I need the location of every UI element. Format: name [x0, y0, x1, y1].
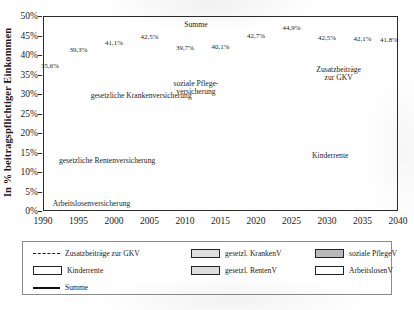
y-tick-mark: [38, 172, 42, 173]
data-point-label: 41,1%: [105, 39, 123, 46]
legend-swatch-white: [33, 266, 62, 275]
y-tick-label: 40%: [21, 50, 38, 60]
y-tick-label: 35%: [21, 70, 38, 80]
y-tick-label: 25%: [21, 109, 38, 119]
y-tick-mark: [38, 211, 42, 212]
legend-swatch-lgray: [191, 266, 220, 275]
annotation-arbeitslosenversicherung: Arbeitslosenversicherung: [53, 200, 131, 209]
data-point-label: 41,8%: [380, 36, 398, 43]
legend-item[interactable]: ArbeitslosenV: [315, 266, 393, 275]
y-tick-mark: [38, 36, 42, 37]
y-tick-mark: [38, 153, 42, 154]
legend-item[interactable]: Kinderrente: [33, 266, 103, 275]
y-tick-label: 20%: [21, 128, 38, 138]
y-tick-label: 5%: [25, 187, 38, 197]
y-tick-mark: [38, 16, 42, 17]
chart-page: In % beitragspflichtiger Einkommen 0%5%1…: [0, 0, 414, 310]
data-point-label: 44,9%: [283, 24, 301, 31]
y-tick-mark: [38, 114, 42, 115]
x-tick-label: 2030: [318, 216, 337, 226]
legend-label: gesetzl. RentenV: [225, 266, 277, 275]
x-tick-label: 2040: [389, 216, 408, 226]
legend-label: soziale PflegeV: [349, 249, 397, 258]
annotation-summe: Summe: [184, 21, 207, 30]
y-tick-label: 45%: [21, 31, 38, 41]
data-point-label: 39,7%: [176, 44, 194, 51]
legend-label: Kinderrente: [67, 266, 103, 275]
y-tick-mark: [38, 75, 42, 76]
data-point-label: 42,5%: [141, 33, 159, 40]
legend-item[interactable]: gesetzl. KrankenV: [191, 249, 282, 258]
x-tick-label: 2005: [140, 216, 159, 226]
legend-label: ArbeitslosenV: [349, 266, 393, 275]
x-tick-label: 2010: [176, 216, 195, 226]
x-tick-label: 1995: [69, 216, 88, 226]
y-axis-tick-labels: 0%5%10%15%20%25%30%35%40%45%50%: [14, 16, 42, 211]
x-tick-label: 2025: [282, 216, 301, 226]
x-axis-tick-labels: 1990199520002005201020152020202520302035…: [43, 213, 398, 229]
y-tick-mark: [38, 192, 42, 193]
x-tick-label: 2015: [211, 216, 230, 226]
x-tick-label: 2020: [247, 216, 266, 226]
legend-label: gesetzl. KrankenV: [225, 249, 282, 258]
y-tick-mark: [38, 55, 42, 56]
legend-swatch-gray: [315, 249, 344, 258]
y-tick-label: 50%: [21, 11, 38, 21]
annotation-kinderrente: Kinderrente: [312, 152, 348, 161]
data-point-label: 42,5%: [318, 34, 336, 41]
legend-item[interactable]: Summe: [33, 283, 88, 292]
legend-swatch-lgray: [191, 249, 220, 258]
y-tick-mark: [38, 133, 42, 134]
y-tick-mark: [38, 94, 42, 95]
x-tick-label: 2000: [105, 216, 124, 226]
chart-legend: Zusatzbeiträge zur GKVgesetzl. KrankenVs…: [22, 241, 392, 295]
y-tick-label: 15%: [21, 148, 38, 158]
y-tick-label: 30%: [21, 89, 38, 99]
legend-label: Summe: [65, 283, 88, 292]
x-tick-label: 2035: [353, 216, 372, 226]
y-tick-label: 0%: [25, 206, 38, 216]
data-point-label: 35,6%: [41, 62, 59, 69]
annotation-zusatzbeitraege-zur-gkv: Zusatzbeiträgezur GKV: [310, 66, 368, 83]
data-point-label: 40,1%: [212, 43, 230, 50]
data-point-label: 39,3%: [70, 46, 88, 53]
y-axis-title-label: In % beitragspflichtiger Einkommen: [3, 27, 14, 196]
legend-swatch-white: [315, 266, 344, 275]
plot-area: 35,6%39,3%41,1%42,5%39,7%40,1%42,7%44,9%…: [43, 16, 398, 211]
annotation-soziale-pflegeversicherung: soziale Pflege-versicherung: [168, 80, 224, 97]
data-point-label: 42,1%: [354, 35, 372, 42]
x-tick-label: 1990: [34, 216, 53, 226]
legend-item[interactable]: gesetzl. RentenV: [191, 266, 277, 275]
legend-swatch-dash: [33, 253, 60, 254]
legend-label: Zusatzbeiträge zur GKV: [65, 249, 140, 258]
legend-item[interactable]: Zusatzbeiträge zur GKV: [33, 249, 140, 258]
data-point-label: 42,7%: [247, 32, 265, 39]
annotation-gesetzliche-rentenversicherung: gesetzliche Rentenversicherung: [59, 157, 155, 166]
legend-item[interactable]: soziale PflegeV: [315, 249, 397, 258]
y-tick-label: 10%: [21, 167, 38, 177]
legend-swatch-line: [33, 287, 60, 289]
